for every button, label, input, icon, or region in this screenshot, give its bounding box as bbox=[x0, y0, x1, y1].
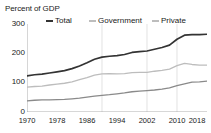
x-tick-label: 1978 bbox=[44, 116, 70, 125]
legend-swatch-government bbox=[89, 20, 96, 22]
chart-figure: Percent of GDP 300 200 100 0 Total Gover… bbox=[0, 0, 211, 133]
y-tick-label: 200 bbox=[3, 49, 25, 57]
x-tick-label: 1994 bbox=[104, 116, 130, 125]
chart-svg bbox=[27, 24, 207, 112]
legend-swatch-private bbox=[152, 20, 159, 22]
x-tick-label: 2002 bbox=[134, 116, 160, 125]
x-tick-label: 1970 bbox=[14, 116, 40, 125]
x-tick-label: 2018 bbox=[184, 116, 210, 125]
y-tick-label: 100 bbox=[3, 78, 25, 86]
y-tick-label: 0 bbox=[3, 108, 25, 116]
y-axis-tick-labels: 300 200 100 0 bbox=[0, 0, 25, 133]
series-line-government bbox=[27, 63, 207, 87]
legend-swatch-total bbox=[46, 20, 53, 22]
plot-area bbox=[27, 24, 207, 112]
series-line-total bbox=[27, 34, 207, 76]
x-tick-label: 1986 bbox=[74, 116, 100, 125]
y-tick-label: 300 bbox=[3, 20, 25, 28]
